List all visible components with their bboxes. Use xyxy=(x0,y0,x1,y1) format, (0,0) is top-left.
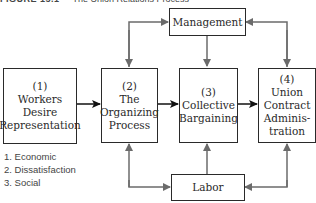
step1-line: Representation xyxy=(0,119,81,132)
reason-item: 2. Dissatisfaction xyxy=(4,163,76,176)
step2-number: (2) xyxy=(122,80,137,93)
step4-line: Contract xyxy=(264,99,311,112)
box-step1-workers-desire-representation: (1) Workers Desire Representation xyxy=(3,68,77,144)
step2-line: The xyxy=(120,93,140,106)
arrow-box2-to-management xyxy=(129,22,168,67)
reason-item: 1. Economic xyxy=(4,150,76,163)
step4-line: Adminis- xyxy=(264,112,311,125)
step2-line: Organizing xyxy=(100,106,159,119)
arrow-box4-to-labor xyxy=(245,180,287,187)
step2-line: Process xyxy=(109,119,150,132)
step3-line: Collective xyxy=(182,99,235,112)
step3-number: (3) xyxy=(201,86,216,99)
box-labor: Labor xyxy=(171,174,245,201)
step4-line: tration xyxy=(269,125,305,138)
box-step3-collective-bargaining: (3) Collective Bargaining xyxy=(179,68,238,143)
step1-number: (1) xyxy=(33,80,48,93)
step4-number: (4) xyxy=(280,73,295,86)
box-step4-union-contract-administration: (4) Union Contract Adminis- tration xyxy=(258,68,316,143)
arrow-box2-to-labor xyxy=(129,180,170,187)
reason-item: 3. Social xyxy=(4,176,76,189)
step1-line: Desire xyxy=(23,106,58,119)
step3-line: Bargaining xyxy=(179,112,238,125)
step4-line: Union xyxy=(271,86,303,99)
box-management: Management xyxy=(169,8,246,36)
reasons-list: 1. Economic 2. Dissatisfaction 3. Social xyxy=(4,150,76,189)
management-label: Management xyxy=(172,16,242,29)
arrow-box4-to-management xyxy=(246,22,287,67)
box-step2-organizing-process: (2) The Organizing Process xyxy=(101,68,158,143)
step1-line: Workers xyxy=(18,93,62,106)
labor-label: Labor xyxy=(192,181,223,194)
